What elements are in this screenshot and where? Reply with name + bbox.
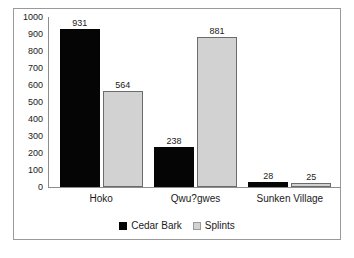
bar-hoko-cedar-bark[interactable]: 931 bbox=[60, 29, 100, 187]
bar-qwu-gwes-splints[interactable]: 881 bbox=[197, 37, 237, 187]
y-axis-line bbox=[48, 17, 49, 187]
bar-value-label: 931 bbox=[72, 19, 87, 28]
bar-value-label: 564 bbox=[115, 81, 130, 90]
y-axis-tick-0: 0 bbox=[38, 183, 43, 192]
legend-label: Splints bbox=[205, 221, 235, 231]
legend-label: Cedar Bark bbox=[131, 221, 182, 231]
legend-swatch-icon bbox=[119, 222, 127, 230]
bar-sunken-village-splints[interactable]: 25 bbox=[291, 183, 331, 187]
y-axis-tick-900: 900 bbox=[28, 30, 43, 39]
bar-value-label: 25 bbox=[306, 173, 316, 182]
bar-qwu-gwes-cedar-bark[interactable]: 238 bbox=[154, 147, 194, 187]
bar-group-1: 238881Qwu?gwes bbox=[154, 17, 237, 187]
legend-swatch-icon bbox=[193, 222, 201, 230]
y-axis-tick-500: 500 bbox=[28, 98, 43, 107]
chart-frame: 10009008007006005004003002001000 931564H… bbox=[13, 8, 341, 240]
chart-legend: Cedar BarkSplints bbox=[14, 221, 340, 231]
category-label-1: Qwu?gwes bbox=[171, 194, 220, 204]
bar-sunken-village-cedar-bark[interactable]: 28 bbox=[248, 182, 288, 187]
category-label-2: Sunken Village bbox=[257, 194, 324, 204]
y-axis-tick-600: 600 bbox=[28, 81, 43, 90]
y-axis-tick-1000: 1000 bbox=[23, 13, 43, 22]
bar-value-label: 881 bbox=[209, 27, 224, 36]
y-axis-tick-100: 100 bbox=[28, 166, 43, 175]
plot-area: 10009008007006005004003002001000 931564H… bbox=[48, 17, 331, 187]
legend-item-splints[interactable]: Splints bbox=[193, 221, 235, 231]
y-axis-tick-400: 400 bbox=[28, 115, 43, 124]
bar-group-0: 931564Hoko bbox=[60, 17, 143, 187]
y-axis-tick-800: 800 bbox=[28, 47, 43, 56]
y-axis-tick-300: 300 bbox=[28, 132, 43, 141]
bar-value-label: 238 bbox=[166, 137, 181, 146]
y-axis-tick-700: 700 bbox=[28, 64, 43, 73]
legend-item-cedar-bark[interactable]: Cedar Bark bbox=[119, 221, 182, 231]
bar-hoko-splints[interactable]: 564 bbox=[103, 91, 143, 187]
x-axis-line bbox=[48, 187, 341, 188]
y-axis-tick-200: 200 bbox=[28, 149, 43, 158]
category-label-0: Hoko bbox=[89, 194, 112, 204]
bar-value-label: 28 bbox=[263, 172, 273, 181]
bar-group-2: 2825Sunken Village bbox=[248, 17, 331, 187]
